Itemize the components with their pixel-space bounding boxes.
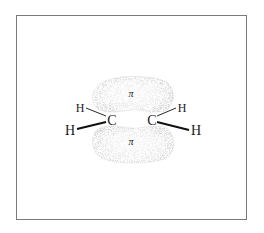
atom-h-right-top: H — [178, 101, 187, 115]
ethylene-pi-diagram: π π C C H H H H — [0, 0, 264, 233]
atom-carbon-right: C — [147, 113, 156, 128]
atom-carbon-left: C — [107, 113, 116, 128]
atom-h-left-top: H — [76, 101, 85, 115]
atom-h-left-bottom: H — [65, 123, 75, 138]
atom-h-right-bottom: H — [191, 123, 201, 138]
